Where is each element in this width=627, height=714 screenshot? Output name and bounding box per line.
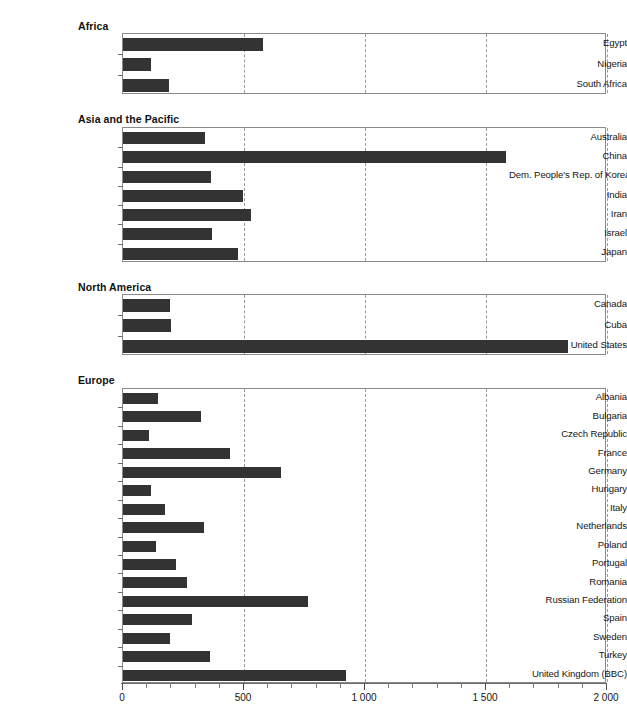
x-tick-label: 500 [235, 692, 252, 703]
bar [123, 209, 251, 221]
x-tick-minor [582, 683, 583, 688]
bar [123, 541, 156, 552]
x-tick-minor [291, 683, 292, 688]
category-tick [118, 54, 123, 55]
category-tick [118, 629, 123, 630]
x-tick-major [122, 683, 123, 690]
category-tick [118, 592, 123, 593]
category-tick [118, 500, 123, 501]
bar [123, 633, 170, 644]
x-tick-minor [146, 683, 147, 688]
bar [123, 79, 169, 92]
panel-title: Europe [78, 374, 115, 386]
bar [123, 448, 230, 459]
panel-title: Asia and the Pacific [78, 113, 179, 125]
category-tick [118, 518, 123, 519]
category-label: Turkey [509, 649, 627, 660]
bar [123, 559, 176, 570]
x-tick-minor [219, 683, 220, 688]
bar [123, 596, 308, 607]
bar [123, 228, 212, 240]
category-tick [118, 147, 123, 148]
x-tick-major [364, 683, 365, 690]
x-tick-label: 1 000 [351, 692, 376, 703]
bar [123, 58, 151, 71]
category-tick [118, 555, 123, 556]
category-tick [118, 426, 123, 427]
x-tick-minor [340, 683, 341, 688]
category-tick [118, 75, 123, 76]
bar [123, 151, 506, 163]
x-tick-minor [267, 683, 268, 688]
category-tick [118, 315, 123, 316]
bar [123, 411, 201, 422]
category-tick [118, 224, 123, 225]
panel-title: Africa [78, 20, 108, 32]
category-label: Nigeria [509, 58, 627, 69]
x-tick-major [243, 683, 244, 690]
bar [123, 393, 158, 404]
category-label: Netherlands [509, 520, 627, 531]
category-tick [118, 167, 123, 168]
x-tick-minor [170, 683, 171, 688]
x-tick-minor [412, 683, 413, 688]
x-tick-minor [461, 683, 462, 688]
x-tick-minor [388, 683, 389, 688]
category-label: India [509, 189, 627, 200]
x-tick-label: 0 [119, 692, 125, 703]
category-label: China [509, 150, 627, 161]
category-label: Egypt [509, 37, 627, 48]
category-label: Dem. People's Rep. of Korea [509, 169, 627, 180]
x-tick-major [485, 683, 486, 690]
category-label: France [509, 447, 627, 458]
category-tick [118, 573, 123, 574]
category-label: Sweden [509, 631, 627, 642]
category-tick [118, 610, 123, 611]
category-tick [118, 407, 123, 408]
category-label: Czech Republic [509, 428, 627, 439]
bar [123, 340, 568, 353]
category-tick [118, 666, 123, 667]
category-label: Hungary [509, 483, 627, 494]
category-tick [118, 444, 123, 445]
category-label: Portugal [509, 557, 627, 568]
bar [123, 430, 149, 441]
panel-title: North America [78, 281, 151, 293]
bar [123, 248, 238, 260]
category-label: Cuba [509, 319, 627, 330]
bar [123, 614, 192, 625]
category-tick [118, 647, 123, 648]
category-label: Italy [509, 502, 627, 513]
x-tick-minor [316, 683, 317, 688]
category-label: Albania [509, 391, 627, 402]
bar [123, 467, 281, 478]
bar [123, 190, 243, 202]
x-tick-minor [509, 683, 510, 688]
x-tick-label: 1 500 [472, 692, 497, 703]
category-label: Romania [509, 576, 627, 587]
bar [123, 319, 171, 332]
category-tick [118, 537, 123, 538]
category-label: Japan [509, 246, 627, 257]
bar [123, 504, 165, 515]
category-label: Australia [509, 131, 627, 142]
category-label: South Africa [509, 78, 627, 89]
category-label: United Kingdom (BBC) [509, 668, 627, 679]
category-label: Canada [509, 298, 627, 309]
category-tick [118, 186, 123, 187]
bar-chart-figure: AfricaEgyptNigeriaSouth AfricaAsia and t… [0, 0, 627, 714]
category-label: Israel [509, 227, 627, 238]
category-label: United States [509, 339, 627, 350]
category-label: Poland [509, 539, 627, 550]
bar [123, 38, 263, 51]
x-tick-label: 2 000 [593, 692, 618, 703]
x-tick-minor [533, 683, 534, 688]
category-label: Bulgaria [509, 410, 627, 421]
category-tick [118, 336, 123, 337]
bar [123, 670, 346, 681]
bar [123, 485, 151, 496]
category-label: Russian Federation [509, 594, 627, 605]
category-tick [118, 481, 123, 482]
bar [123, 299, 170, 312]
x-tick-minor [195, 683, 196, 688]
